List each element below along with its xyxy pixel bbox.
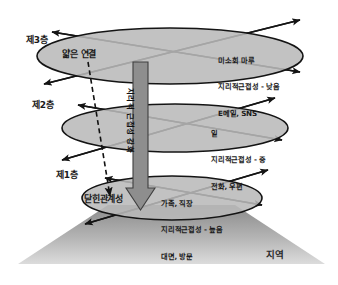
tier-3-node-label: 얇은 연결 <box>62 49 96 60</box>
tier-2-attr-0: 일 <box>211 130 266 138</box>
tier-3-attr-1: 지리적근접성 - 낮음 <box>218 83 280 91</box>
tier-2-label: 제2층 <box>32 100 54 111</box>
proximity-axis-label: 지리적 근접성 강화 <box>126 88 137 153</box>
tier-3-attr-0: 미소회 마루 <box>218 57 280 65</box>
tier-1-attributes: 가족, 직장 지리적근접성 - 높음 대면, 방문 <box>161 183 223 279</box>
tier-1-attr-2: 대면, 방문 <box>161 253 223 261</box>
tier-3-label: 제3층 <box>26 35 48 46</box>
tier-1-label: 제1층 <box>56 170 78 181</box>
tier-1-node-label: 닫힌관계성 <box>84 194 123 205</box>
tier-1-attr-0: 가족, 직장 <box>161 200 223 208</box>
network-tier-diagram: 제3층 얇은 연결 미소회 마루 지리적근접성 - 낮음 E메일, SNS 제2… <box>0 0 338 285</box>
tier-2-attr-1: 지리적근접성 - 중 <box>211 156 266 164</box>
tier-1-attr-1: 지리적근접성 - 높음 <box>161 226 223 234</box>
ground-label: 지역 <box>266 249 284 260</box>
